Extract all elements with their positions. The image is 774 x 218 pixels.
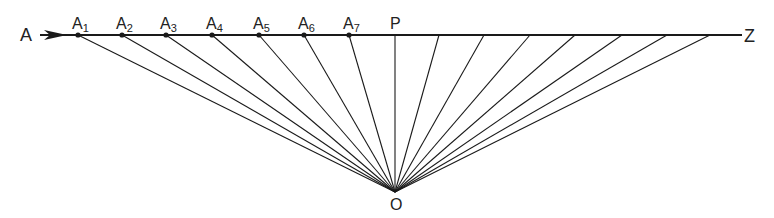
ray-line [395, 35, 484, 192]
ray-line [212, 35, 395, 192]
point-dot [301, 32, 306, 37]
point-dot [119, 32, 124, 37]
point-dot [346, 32, 351, 37]
point-dot [163, 32, 168, 37]
point-label: A2 [116, 15, 133, 34]
point-label: A5 [253, 15, 270, 34]
point-labels: A1A2A3A4A5A6A7 [72, 15, 360, 34]
ray-line [122, 35, 395, 192]
ray-line [395, 35, 530, 192]
point-label: A1 [72, 15, 89, 34]
ray-line [395, 35, 575, 192]
label-apex-O: O [390, 196, 402, 213]
rays-to-apex [78, 35, 710, 192]
ray-line [259, 35, 395, 192]
label-P: P [390, 15, 401, 32]
point-dot [209, 32, 214, 37]
point-label: A6 [298, 15, 315, 34]
ray-line [349, 35, 395, 192]
point-dot [256, 32, 261, 37]
ray-line [166, 35, 395, 192]
ray-line [395, 35, 667, 192]
point-label: A7 [343, 15, 360, 34]
ray-line [395, 35, 439, 192]
label-start-A: A [20, 25, 32, 45]
label-end-Z: Z [744, 26, 755, 46]
ray-diagram: A1A2A3A4A5A6A7 A Z P O [0, 0, 774, 218]
ray-line [395, 35, 710, 192]
ray-line [304, 35, 395, 192]
ray-line [78, 35, 395, 192]
point-label: A3 [160, 15, 177, 34]
point-dot [75, 32, 80, 37]
point-label: A4 [206, 15, 223, 34]
ray-line [395, 35, 622, 192]
